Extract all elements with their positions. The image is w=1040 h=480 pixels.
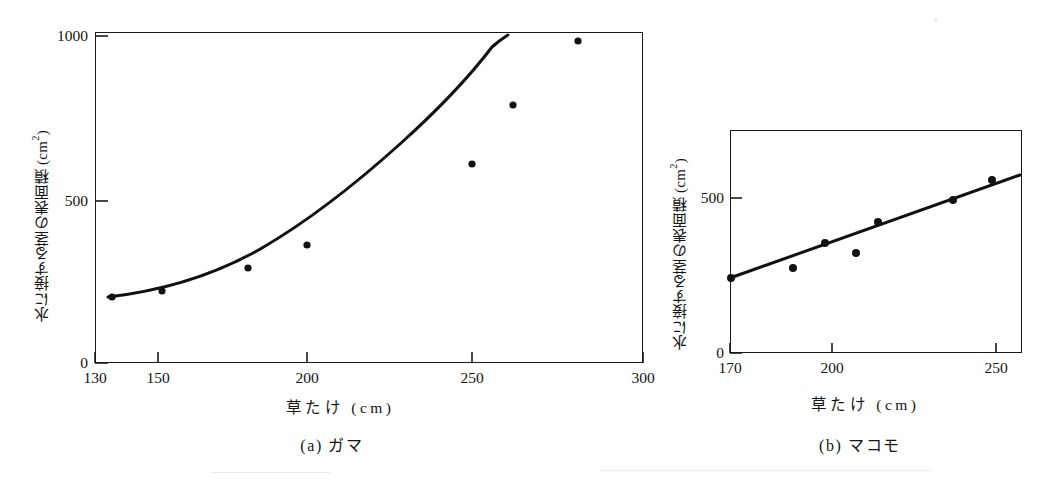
x-tick-label: 200: [820, 360, 843, 376]
x-axis-title-b: 草たけ (cm): [811, 392, 919, 414]
x-tick-label: 200: [295, 370, 318, 386]
x-tick-label: 300: [631, 370, 654, 386]
x-axis-title-a: 草たけ (cm): [286, 395, 394, 417]
y-axis-title-a: 水に接する茎の表面積 (cm2): [30, 72, 52, 322]
x-tick-label: 250: [984, 360, 1007, 376]
scan-artifact: [934, 18, 937, 21]
x-tick-label: 170: [718, 360, 741, 376]
y-tick-label: 1000: [42, 28, 88, 44]
scan-artifact: [600, 470, 930, 471]
x-tick-label: 150: [146, 370, 169, 386]
chart-panel-b: 0 500 170 200 250 水に接する茎の表面積 (cm2) 草たけ (…: [660, 0, 1040, 480]
panel-caption-b: (b) マコモ: [819, 432, 901, 456]
scan-artifact: [210, 472, 330, 473]
plot-area-b: [730, 130, 1022, 353]
figure-container: 0 500 1000 130 150 200 250 300 水に接する茎の表面…: [0, 0, 1040, 480]
y-axis-title-b: 水に接する茎の表面積 (cm2): [668, 135, 690, 350]
panel-caption-a: (a) ガマ: [300, 432, 363, 456]
plot-area-a: [95, 32, 643, 363]
y-tick-label: 0: [42, 355, 88, 371]
x-tick-label: 130: [83, 370, 106, 386]
chart-panel-a: 0 500 1000 130 150 200 250 300 水に接する茎の表面…: [0, 0, 660, 480]
x-tick-label: 250: [460, 370, 483, 386]
